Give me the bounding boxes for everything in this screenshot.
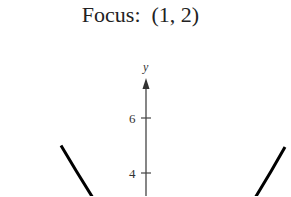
parabola-curve-left [61, 146, 93, 197]
y-axis-arrow-icon [143, 78, 150, 89]
y-tick-label-6: 6 [129, 111, 136, 126]
parabola-plot: y 6 4 [0, 0, 291, 196]
y-tick-label-4: 4 [129, 166, 136, 181]
parabola-curve-right [255, 147, 285, 196]
y-axis-label: y [142, 60, 149, 74]
